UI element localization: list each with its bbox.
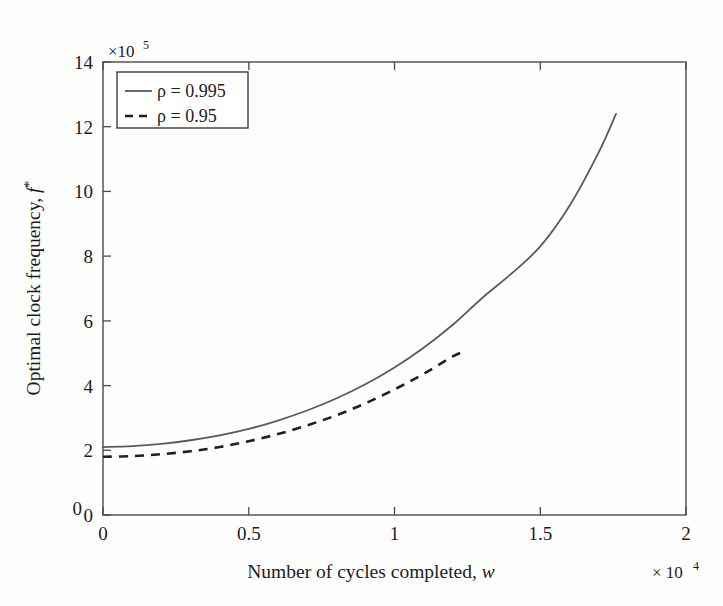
y-multiplier-exponent: 5 (143, 38, 149, 52)
x-axis-title-symbol: w (482, 561, 495, 582)
x-tick-label: 2 (681, 523, 691, 544)
y-tick-label: 2 (84, 440, 94, 461)
svg-text:Optimal clock frequency, f*: Optimal clock frequency, f* (22, 181, 44, 396)
y-tick-label: 0 (84, 505, 94, 526)
x-axis-title-text: Number of cycles completed, (247, 561, 481, 582)
line-chart: ×10 5 0 2 4 6 8 10 12 14 (0, 0, 723, 606)
x-tick-label: 0.5 (237, 523, 261, 544)
y-multiplier-base: ×10 (108, 42, 135, 61)
plot-frame (103, 62, 686, 515)
y-axis-multiplier: ×10 5 (108, 38, 149, 61)
y-tick-label: 4 (84, 376, 94, 397)
x-axis-title: Number of cycles completed, w (247, 561, 494, 582)
series-line-rho-0-995 (103, 114, 616, 447)
x-tick-label: 0 (98, 523, 108, 544)
y-origin-label: 0 (73, 498, 83, 519)
y-tick-label: 10 (74, 181, 93, 202)
x-tick-label: 1 (390, 523, 400, 544)
x-axis-ticks: 0 0.5 1 1.5 2 (98, 62, 691, 544)
figure-container: ×10 5 0 2 4 6 8 10 12 14 (0, 0, 723, 606)
x-multiplier-base: × 10 (652, 563, 683, 582)
x-multiplier-exponent: 4 (693, 559, 699, 573)
x-tick-label: 1.5 (528, 523, 552, 544)
y-axis-ticks: 0 2 4 6 8 10 12 14 (74, 52, 111, 526)
y-axis-title: Optimal clock frequency, f* (22, 181, 44, 396)
y-tick-label: 6 (84, 311, 94, 332)
y-axis-title-text: Optimal clock frequency, (23, 193, 44, 395)
y-tick-label: 8 (84, 246, 94, 267)
y-axis-title-sup: * (22, 181, 37, 188)
y-tick-label: 14 (74, 52, 94, 73)
legend-label: ρ = 0.95 (157, 106, 217, 126)
legend-label: ρ = 0.995 (157, 81, 226, 101)
x-axis-multiplier: × 10 4 (652, 559, 699, 582)
svg-text:Number of cycles completed, w: Number of cycles completed, w (247, 561, 494, 582)
series-line-rho-0-95 (103, 352, 464, 457)
legend: ρ = 0.995 ρ = 0.95 (117, 72, 248, 128)
y-tick-label: 12 (74, 117, 93, 138)
